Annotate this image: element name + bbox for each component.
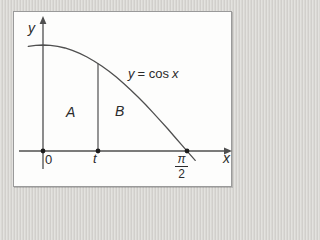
two-denominator: 2 <box>175 166 188 181</box>
x-axis-label: x <box>223 151 230 165</box>
cosine-curve <box>28 45 195 160</box>
pi-numerator: π <box>175 153 188 166</box>
curve-equation-equals-cos: = cos <box>138 67 169 80</box>
t-tick-label: t <box>93 152 97 165</box>
region-b-label: B <box>115 104 124 118</box>
curve-equation-label: y = cos x <box>128 67 178 80</box>
curve-equation-y: y <box>128 67 135 80</box>
y-axis-label: y <box>28 21 35 35</box>
region-a-label: A <box>66 105 75 119</box>
curve-equation-x: x <box>172 67 179 80</box>
figure-panel: y x 0 t A B y = cos x π 2 <box>13 11 232 187</box>
origin-tick-label: 0 <box>45 153 52 166</box>
pi-over-2-tick-label: π 2 <box>175 153 188 181</box>
y-axis-arrow-icon <box>40 16 47 24</box>
